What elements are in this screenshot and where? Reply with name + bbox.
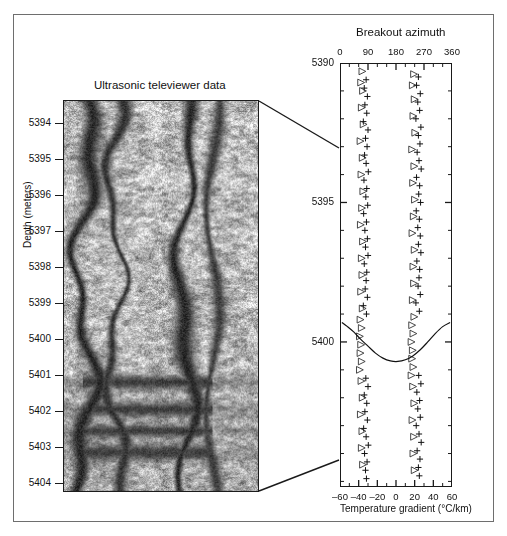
depth-tick: [55, 231, 63, 232]
symbol-plus: [418, 381, 424, 387]
symbol-triangle: [410, 213, 417, 220]
symbol-plus: [417, 291, 423, 297]
symbol-plus: [413, 174, 419, 180]
symbol-plus: [413, 208, 419, 214]
symbol-plus: [364, 294, 370, 300]
symbol-triangle: [411, 246, 418, 253]
symbol-plus: [363, 277, 369, 283]
symbol-triangle: [357, 350, 364, 357]
symbol-plus: [416, 191, 422, 197]
symbol-triangle: [411, 163, 418, 170]
depth-tick-label: 5404: [17, 477, 51, 488]
symbol-plus: [361, 261, 367, 267]
symbol-plus: [364, 110, 370, 116]
symbol-plus: [365, 202, 371, 208]
symbol-plus: [362, 244, 368, 250]
symbol-triangle: [357, 221, 364, 228]
symbol-triangle: [410, 263, 417, 270]
symbol-plus: [365, 252, 371, 258]
symbol-plus: [361, 177, 367, 183]
depth-tick-label: 5400: [17, 333, 51, 344]
symbol-triangle: [358, 325, 365, 332]
depth-tick: [55, 447, 63, 448]
depth-tick-label: 5399: [17, 297, 51, 308]
symbol-plus: [417, 141, 423, 147]
symbol-triangle: [412, 196, 419, 203]
symbol-plus: [417, 199, 423, 205]
depth-tick-label: 5396: [17, 189, 51, 200]
figure-root: Ultrasonic televiewer data Depth (meters…: [0, 0, 507, 536]
symbol-plus: [416, 473, 422, 479]
symbol-plus: [361, 450, 367, 456]
breakout-azimuth-plot: [340, 63, 452, 487]
symbol-plus: [417, 414, 423, 420]
symbol-plus: [415, 406, 421, 412]
plot-depth-tick-label: 5400: [298, 336, 334, 347]
symbol-plus: [363, 194, 369, 200]
symbol-plus: [417, 456, 423, 462]
symbol-triangle: [358, 358, 365, 365]
symbol-triangle: [410, 180, 417, 187]
symbol-triangle: [359, 205, 366, 212]
depth-tick-label: 5402: [17, 405, 51, 416]
symbol-plus: [365, 383, 371, 389]
symbol-plus: [418, 124, 424, 130]
depth-tick: [55, 483, 63, 484]
symbol-triangle: [357, 366, 364, 373]
plot-depth-tick-label: 5390: [298, 57, 334, 68]
azimuth-tick-label: 270: [411, 46, 437, 57]
symbol-plus: [417, 266, 423, 272]
symbol-triangle: [410, 364, 417, 371]
symbol-plus: [362, 227, 368, 233]
symbol-triangle: [410, 383, 417, 390]
depth-tick: [55, 375, 63, 376]
symbol-plus: [416, 372, 422, 378]
symbol-triangle: [409, 230, 416, 237]
depth-tick: [55, 123, 63, 124]
symbol-triangle: [411, 313, 418, 320]
symbol-plus: [416, 275, 422, 281]
symbol-plus: [365, 442, 371, 448]
plot-depth-tick-label: 5395: [298, 196, 334, 207]
depth-tick: [55, 267, 63, 268]
azimuth-tick-label: 180: [383, 46, 409, 57]
symbol-plus: [364, 144, 370, 150]
depth-tick-label: 5398: [17, 261, 51, 272]
symbol-triangle: [409, 347, 416, 354]
televiewer-image: [63, 100, 259, 492]
symbol-plus: [417, 107, 423, 113]
symbol-plus: [415, 224, 421, 230]
depth-tick-label: 5395: [17, 153, 51, 164]
symbol-plus: [416, 216, 422, 222]
symbol-plus: [362, 467, 368, 473]
symbol-plus: [414, 389, 420, 395]
symbol-triangle: [358, 445, 365, 452]
symbol-triangle: [410, 330, 417, 337]
televiewer-image-panel: [63, 100, 259, 492]
symbol-plus: [361, 211, 367, 217]
symbol-triangle: [358, 171, 365, 178]
symbol-plus: [417, 233, 423, 239]
depth-tick: [55, 411, 63, 412]
symbol-plus: [364, 93, 370, 99]
symbol-triangle: [409, 417, 416, 424]
symbol-plus: [413, 423, 419, 429]
symbol-triangle: [359, 68, 366, 75]
symbol-plus: [363, 219, 369, 225]
symbol-plus: [363, 160, 369, 166]
symbol-plus: [418, 439, 424, 445]
symbol-plus: [416, 158, 422, 164]
depth-tick: [55, 303, 63, 304]
symbol-plus: [417, 183, 423, 189]
symbol-triangle: [358, 255, 365, 262]
symbol-plus: [364, 417, 370, 423]
temperature-gradient-axis-label: Temperature gradient (°C/km): [340, 503, 472, 514]
symbol-triangle: [409, 322, 416, 329]
symbol-triangle: [357, 316, 364, 323]
symbol-plus: [415, 241, 421, 247]
symbol-plus: [364, 400, 370, 406]
azimuth-tick-label: 0: [327, 46, 353, 57]
symbol-plus: [365, 169, 371, 175]
symbol-triangle: [408, 372, 415, 379]
symbol-plus: [418, 166, 424, 172]
